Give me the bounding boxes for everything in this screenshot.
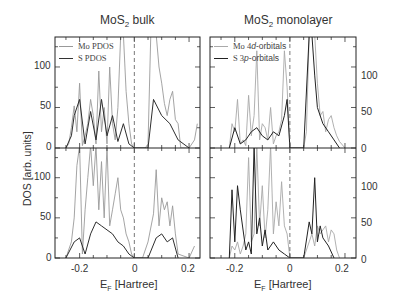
legend-item-s: S PDOS [59, 52, 114, 64]
xtick-right-0: 0 [287, 263, 293, 274]
legend-item-s-3p: S 3p-orbitals [214, 52, 286, 64]
legend-label-rest: -orbitals [249, 53, 279, 63]
legend-bulk: Mo PDOS S PDOS [59, 40, 114, 64]
legend-item-mo: Mo PDOS [59, 40, 114, 52]
ytick-right-bottom-0: 0 [361, 254, 367, 265]
legend-label: Mo 4 [233, 41, 251, 51]
legend-line-icon [214, 58, 228, 59]
xlabel-right: EF [Hartree] [254, 278, 311, 292]
legend-label: Mo PDOS [78, 41, 114, 51]
ytick-right-bottom-50: 50 [361, 217, 372, 228]
ytick-right-top-0: 0 [361, 143, 367, 154]
legend-line-icon [59, 58, 73, 59]
ytick-left-bottom-50: 50 [40, 211, 51, 222]
ytick-right-bottom-100: 100 [361, 181, 378, 192]
legend-label: S 3 [233, 53, 244, 63]
dos-curve [229, 146, 334, 258]
legend-label: S PDOS [78, 53, 107, 63]
legend-monolayer: Mo 4d-orbitals S 3p-orbitals [214, 40, 286, 64]
xtick-left-neg02: -0.2 [71, 263, 88, 274]
ytick-right-top-50: 50 [361, 106, 372, 117]
ytick-left-top-0: 0 [46, 141, 52, 152]
ytick-left-bottom-0: 0 [46, 252, 52, 263]
ylabel-dos: DOS [arb. units] [21, 131, 33, 206]
xtick-left-02: 0.2 [181, 263, 195, 274]
legend-line-icon [59, 46, 73, 47]
dos-curve [229, 146, 339, 258]
legend-label-rest: -orbitals [256, 41, 286, 51]
ytick-right-top-100: 100 [361, 70, 378, 81]
panel-1 [210, 35, 356, 258]
xlabel-left: EF [Hartree] [100, 278, 157, 292]
xtick-left-0: 0 [132, 263, 138, 274]
xtick-right-02: 0.2 [335, 263, 349, 274]
legend-item-mo-4d: Mo 4d-orbitals [214, 40, 286, 52]
xlabel-unit: [Hartree] [266, 278, 312, 290]
dos-curve [66, 146, 195, 258]
xtick-right-neg02: -0.2 [226, 263, 243, 274]
ytick-left-top-50: 50 [40, 100, 51, 111]
panel-0 [55, 35, 200, 258]
legend-line-icon [214, 46, 228, 47]
ytick-left-top-100: 100 [34, 60, 51, 71]
ytick-left-bottom-100: 100 [34, 171, 51, 182]
xlabel-unit: [Hartree] [112, 278, 158, 290]
